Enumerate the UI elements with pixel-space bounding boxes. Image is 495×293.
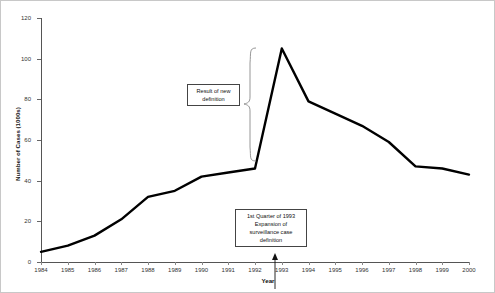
annotation-expansion-line1: 1st Quarter of 1993 [239,212,303,220]
annotation-expansion: 1st Quarter of 1993 Expansion of surveil… [235,209,307,247]
curly-brace-icon [244,48,256,161]
chart-container: 020406080100120 198419851986198719881989… [0,0,495,293]
annotation-expansion-line3: surveillance case [239,228,303,236]
chart-plot-area [1,1,495,293]
annotation-expansion-line2: Expansion of [239,220,303,228]
annotation-new-definition-line1: Result of new [191,87,236,95]
annotation-expansion-line4: definition [239,236,303,244]
annotation-new-definition: Result of new definition [187,84,240,106]
annotation-new-definition-line2: definition [191,95,236,103]
callout-arrow-head [272,253,278,260]
